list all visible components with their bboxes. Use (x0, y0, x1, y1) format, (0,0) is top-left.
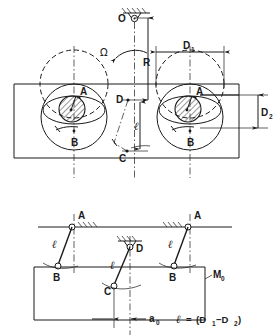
l-dim-label: ℓ (134, 120, 139, 132)
center-link-cd: D C ℓ (112, 94, 150, 164)
d1-label: D (183, 40, 190, 51)
right-label-b: B (187, 137, 194, 148)
d2-label: D (261, 107, 268, 118)
label-radius-r: R (143, 57, 151, 68)
equation-length-relation: ℓ = (D 1 −D 2 ) (176, 313, 241, 327)
lower-elevation-view: M 0 A B ℓ A B ℓ (34, 210, 241, 335)
left-link-bar (58, 227, 72, 265)
center-label-d: D (116, 94, 123, 105)
ground-hatch-right-a (163, 222, 182, 227)
equation-rhs-close: ) (238, 314, 241, 325)
left-lower-label-b: B (53, 272, 60, 283)
right-lower-label-b: B (169, 272, 176, 283)
m0-leader (205, 275, 212, 279)
d2-subscript: 2 (269, 113, 273, 120)
left-point-a-dot (70, 109, 73, 112)
left-label-a: A (80, 86, 87, 97)
ground-hatch-left-a (78, 222, 97, 227)
left-lower-label-a: A (78, 210, 85, 221)
center-link-bar (114, 247, 130, 285)
center-lower-label-c: C (104, 286, 111, 297)
left-point-b-dot (73, 130, 76, 133)
left-label-b: B (71, 137, 78, 148)
equation-lhs: ℓ (176, 313, 181, 325)
right-link-length-label: ℓ (168, 238, 173, 250)
right-leader-b-arc (172, 127, 194, 130)
right-lower-label-a: A (194, 210, 201, 221)
equation-rhs-minus: −D (216, 314, 229, 325)
engineering-figure: O R Ω (0, 0, 280, 335)
d1-subscript: 1 (191, 46, 195, 53)
right-point-b-dot (189, 130, 192, 133)
equation-rhs-open: (D (196, 314, 206, 325)
a0-label: a (149, 313, 155, 324)
m0-subscript: 0 (221, 275, 225, 282)
right-linkage-ab: A B ℓ (159, 210, 201, 283)
diagram-canvas: O R Ω (0, 0, 280, 335)
center-label-c: C (119, 153, 126, 164)
label-pivot-o: O (118, 13, 126, 24)
center-link-path (114, 100, 128, 151)
label-omega: Ω (100, 47, 108, 58)
right-link-bar (174, 227, 188, 265)
left-hatched-disc (59, 96, 85, 122)
left-link-length-label: ℓ (52, 238, 57, 250)
a0-subscript: 0 (156, 319, 160, 326)
left-linkage-ab: A B ℓ (43, 210, 85, 283)
center-lower-label-d: D (136, 243, 143, 254)
center-link-length-label: ℓ (110, 259, 115, 271)
right-point-a-dot (186, 109, 189, 112)
upper-plan-view: O R Ω (14, 8, 273, 180)
center-link-tick (112, 139, 117, 146)
equation-equals: = (186, 314, 192, 325)
left-leader-b-arc (56, 127, 78, 130)
right-hatched-disc (175, 96, 201, 122)
